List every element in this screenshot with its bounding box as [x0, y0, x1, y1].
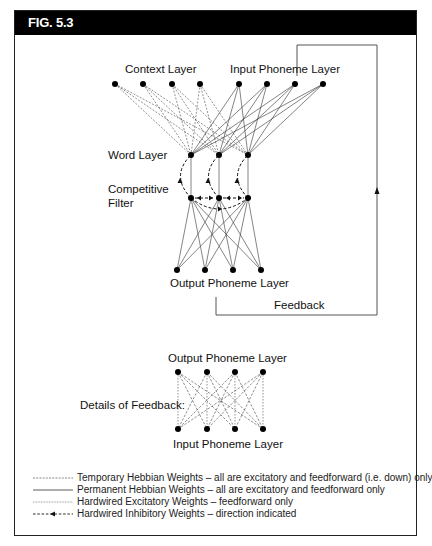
input-phoneme-layer-nodes [236, 81, 326, 87]
details-of-feedback-label: Details of Feedback: [80, 399, 185, 411]
feedback-detail-cross-connections [178, 372, 263, 429]
legend-label-hardwired-excitatory: Hardwired Excitatory Weights – feedforwa… [77, 496, 293, 507]
context-to-word-connections [115, 84, 248, 155]
competitive-filter-label-line1: Competitive [108, 183, 169, 195]
legend-label-temporary-hebbian: Temporary Hebbian Weights – all are exci… [77, 472, 432, 483]
feedback-detail-vertical-connections [178, 372, 263, 429]
input-to-word-connections [191, 84, 323, 155]
legend-label-hardwired-inhibitory: Hardwired Inhibitory Weights – direction… [77, 508, 296, 519]
details-input-phoneme-layer-label: Input Phoneme Layer [173, 438, 283, 450]
output-phoneme-layer-nodes [174, 267, 264, 273]
word-to-filter-connections [191, 155, 248, 198]
legend-inhibitory-arrow-icon [50, 512, 55, 517]
output-phoneme-layer-label: Output Phoneme Layer [170, 277, 289, 289]
legend-label-permanent-hebbian: Permanent Hebbian Weights – all are exci… [77, 484, 385, 495]
feedback-arrow-icon [375, 187, 380, 194]
feedback-detail-output-nodes [175, 369, 266, 375]
word-layer-label: Word Layer [108, 149, 167, 161]
input-phoneme-layer-label: Input Phoneme Layer [230, 63, 340, 75]
details-output-phoneme-layer-label: Output Phoneme Layer [168, 352, 287, 364]
word-layer-nodes [188, 152, 251, 158]
feedback-label: Feedback [274, 299, 325, 311]
network-diagram: Context Layer Input Phoneme Layer Word L… [0, 0, 432, 546]
competitive-filter-label-line2: Filter [108, 197, 134, 209]
context-layer-nodes [112, 81, 203, 87]
context-layer-label: Context Layer [125, 63, 197, 75]
feedback-detail-input-nodes [175, 426, 266, 432]
legend: Temporary Hebbian Weights – all are exci… [33, 472, 432, 519]
